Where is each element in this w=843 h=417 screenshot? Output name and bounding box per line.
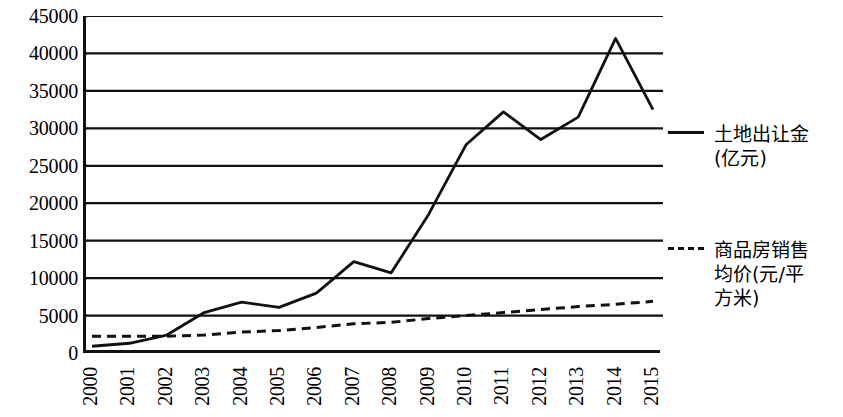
- x-axis-tick-label: 2010: [454, 367, 474, 406]
- y-axis-tick-label: 45000: [0, 6, 78, 26]
- y-axis-tick-label: 10000: [0, 268, 78, 288]
- y-axis-tick-label: 35000: [0, 81, 78, 101]
- plot-area: [83, 16, 660, 353]
- chart-figure: 0500010000150002000025000300003500040000…: [0, 0, 843, 417]
- x-axis-tick-label: 2006: [304, 367, 324, 406]
- plot-svg: [86, 16, 663, 353]
- y-axis-tick-label: 5000: [0, 306, 78, 326]
- legend-label-land-line2: (亿元): [714, 147, 767, 169]
- x-axis-tick-label: 2015: [641, 367, 661, 406]
- x-axis-tick-labels: 2000200120022003200420052006200720082009…: [83, 353, 660, 417]
- y-axis-tick-labels: 0500010000150002000025000300003500040000…: [0, 0, 78, 380]
- x-axis-tick-label: 2013: [566, 367, 586, 406]
- series-line-land-transfer-fee: [92, 38, 653, 346]
- legend-label-price-line3: 方米): [714, 287, 759, 309]
- y-axis-tick-label: 40000: [0, 43, 78, 63]
- x-axis-tick-label: 2014: [604, 367, 624, 406]
- legend-entry-housing-price: 商品房销售均价(元/平方米): [666, 238, 809, 310]
- x-axis-tick-label: 2008: [379, 367, 399, 406]
- legend-label-land-line1: 土地出让金: [714, 123, 809, 145]
- legend-entry-land-transfer-fee: 土地出让金(亿元): [666, 122, 809, 170]
- y-axis-tick-label: 30000: [0, 118, 78, 138]
- y-axis-tick-label: 25000: [0, 156, 78, 176]
- x-axis-tick-label: 2005: [267, 367, 287, 406]
- y-axis-tick-label: 15000: [0, 231, 78, 251]
- y-axis-tick-label: 20000: [0, 193, 78, 213]
- legend-label-housing-price: 商品房销售均价(元/平方米): [714, 238, 809, 310]
- legend-solid-line-icon: [666, 122, 706, 142]
- x-axis-tick-label: 2007: [342, 367, 362, 406]
- legend-label-price-line2: 均价(元/平: [714, 263, 804, 285]
- x-axis-tick-label: 2011: [491, 367, 511, 405]
- legend-label-price-line1: 商品房销售: [714, 239, 809, 261]
- x-axis-tick-label: 2004: [230, 367, 250, 406]
- x-axis-tick-label: 2003: [192, 367, 212, 406]
- x-axis-tick-label: 2000: [80, 367, 100, 406]
- legend-label-land-transfer-fee: 土地出让金(亿元): [714, 122, 809, 170]
- legend-dashed-line-icon: [666, 238, 706, 258]
- series-lines: [92, 38, 653, 346]
- y-axis-tick-label: 0: [0, 343, 78, 363]
- x-axis-tick-label: 2001: [117, 367, 137, 406]
- x-axis-tick-label: 2009: [417, 367, 437, 406]
- x-axis-tick-label: 2002: [155, 367, 175, 406]
- chart-legend: 土地出让金(亿元) 商品房销售均价(元/平方米): [666, 16, 843, 353]
- gridlines: [86, 16, 663, 353]
- x-axis-tick-label: 2012: [529, 367, 549, 406]
